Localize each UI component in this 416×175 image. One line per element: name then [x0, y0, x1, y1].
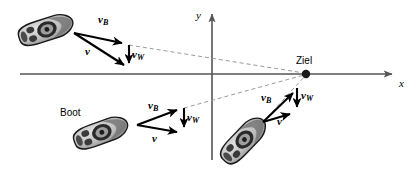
label-v-upper: v	[85, 46, 90, 57]
label-vW-upper: vW	[132, 49, 144, 60]
boat-upper-left	[16, 11, 76, 49]
physics-diagram-canvas: y x Ziel Boot vB vW v vB vW v vB vW v	[0, 0, 416, 175]
vector-v-middle	[137, 125, 177, 132]
label-vW-right-sub: W	[306, 94, 313, 103]
label-v-right: v	[277, 116, 282, 127]
label-vB-right-sub: B	[266, 96, 271, 105]
dashed-line-upper	[129, 45, 304, 73]
x-axis-label: x	[399, 78, 404, 89]
boat-label-boot: Boot	[60, 108, 81, 118]
vector-diagram-svg	[0, 0, 416, 175]
label-v-middle: v	[152, 133, 157, 144]
label-vW-right: vW	[301, 90, 313, 101]
boat-middle	[71, 113, 131, 153]
label-vB-upper: vB	[98, 14, 108, 25]
label-vB-upper-sub: B	[103, 18, 108, 27]
vectors-upper-left	[74, 33, 129, 65]
label-vW-upper-sub: W	[137, 53, 144, 62]
label-vW-middle: vW	[187, 112, 199, 123]
label-vB-middle-sub: B	[153, 104, 158, 113]
target-point-ziel	[302, 70, 310, 78]
label-vW-middle-sub: W	[192, 116, 199, 125]
y-axis-label: y	[196, 10, 201, 21]
vectors-middle	[137, 108, 184, 132]
target-label-ziel: Ziel	[296, 56, 312, 66]
label-vB-middle: vB	[148, 100, 158, 111]
dashed-line-middle	[184, 75, 304, 108]
label-vB-right: vB	[261, 92, 271, 103]
